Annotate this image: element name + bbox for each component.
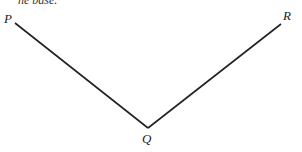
angle-diagram [0,0,302,152]
segment-qr [148,24,281,128]
label-p: P [4,11,12,27]
label-q: Q [142,131,151,147]
label-r: R [283,8,291,24]
segment-pq [15,23,148,128]
